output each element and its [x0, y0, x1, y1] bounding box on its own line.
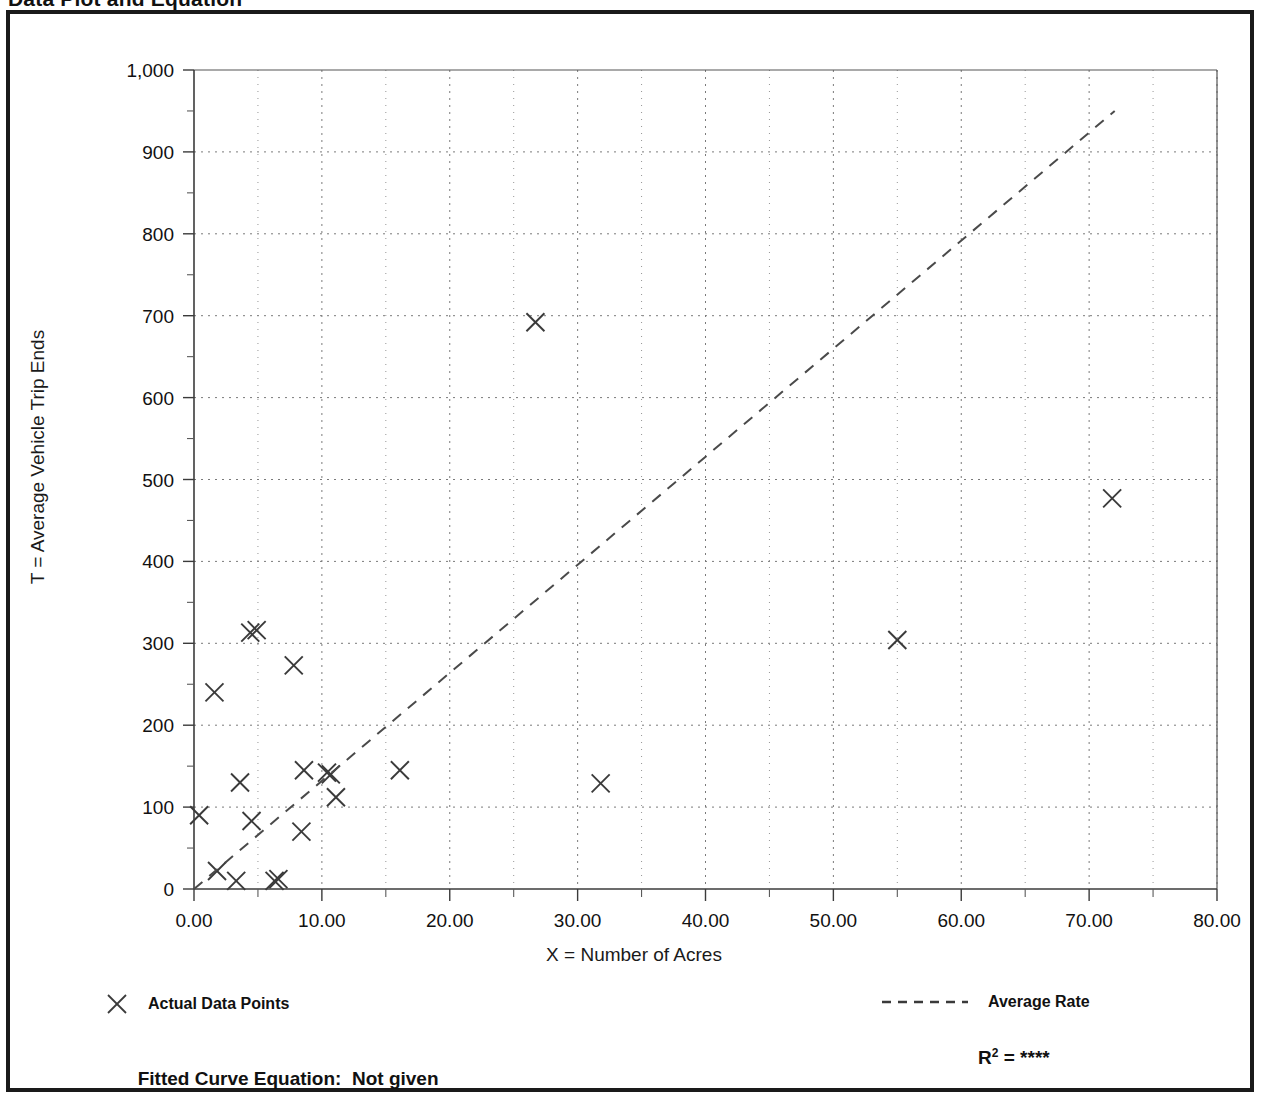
- x-axis-title: X = Number of Acres: [10, 944, 1258, 966]
- data-point-marker: [243, 812, 261, 830]
- y-axis-tick-label: 1,000: [126, 60, 174, 81]
- data-point-marker: [327, 788, 345, 806]
- data-point-marker: [227, 872, 245, 890]
- data-point-marker: [526, 313, 544, 331]
- x-axis-tick-label: 60.00: [937, 910, 985, 931]
- r-squared-stars: ****: [1020, 1047, 1050, 1068]
- dashed-line-icon: [882, 999, 968, 1005]
- data-point-marker: [205, 683, 223, 701]
- data-point-marker: [592, 774, 610, 792]
- data-point-marker: [190, 806, 208, 824]
- r-squared-exponent: 2: [992, 1046, 999, 1060]
- x-axis-tick-label: 50.00: [810, 910, 858, 931]
- r-squared-equals: =: [1004, 1047, 1015, 1068]
- x-axis-tick-label: 70.00: [1065, 910, 1113, 931]
- x-axis-tick-label: 20.00: [426, 910, 474, 931]
- data-point-marker: [285, 656, 303, 674]
- y-axis-tick-label: 900: [142, 142, 174, 163]
- chart-legend: Actual Data Points Average Rate: [10, 989, 1258, 1029]
- figure-frame: 01002003004005006007008009001,0000.0010.…: [6, 10, 1254, 1092]
- data-point-marker: [888, 631, 906, 649]
- legend-label-average-rate: Average Rate: [988, 993, 1090, 1011]
- data-point-marker: [295, 761, 313, 779]
- r-squared-value: R2 = ****: [978, 1046, 1050, 1069]
- data-point-group: [190, 313, 1121, 890]
- average-rate-trend-line: [194, 111, 1115, 889]
- y-axis-tick-label: 500: [142, 470, 174, 491]
- fitted-curve-equation-value: Not given: [352, 1068, 439, 1089]
- x-axis-tick-label: 80.00: [1193, 910, 1241, 931]
- equation-row: Fitted Curve Equation: Not given R2 = **…: [10, 1042, 1258, 1088]
- fitted-curve-equation-label: Fitted Curve Equation:: [138, 1068, 342, 1089]
- chart-plot-area: 01002003004005006007008009001,0000.0010.…: [10, 14, 1258, 1096]
- y-axis-tick-label: 0: [163, 879, 174, 900]
- y-axis-tick-label: 700: [142, 306, 174, 327]
- legend-label-actual-data-points: Actual Data Points: [148, 995, 289, 1013]
- fitted-curve-equation: Fitted Curve Equation: Not given: [106, 1046, 439, 1106]
- x-axis-tick-label: 40.00: [682, 910, 730, 931]
- scatter-chart-svg: 01002003004005006007008009001,0000.0010.…: [10, 14, 1258, 1096]
- x-axis-tick-label: 0.00: [176, 910, 213, 931]
- x-axis-tick-label: 30.00: [554, 910, 602, 931]
- legend-item-average-rate: Average Rate: [882, 993, 1090, 1011]
- y-axis-tick-label: 100: [142, 797, 174, 818]
- data-point-marker: [292, 823, 310, 841]
- data-point-marker: [231, 774, 249, 792]
- y-axis-tick-label: 200: [142, 715, 174, 736]
- r-squared-label: R: [978, 1047, 992, 1068]
- x-axis-tick-label: 10.00: [298, 910, 346, 931]
- x-marker-icon: [106, 993, 128, 1015]
- data-point-marker: [241, 624, 259, 642]
- y-axis-tick-label: 800: [142, 224, 174, 245]
- data-point-marker: [248, 621, 266, 639]
- data-point-marker: [208, 862, 226, 880]
- y-axis-tick-label: 300: [142, 633, 174, 654]
- data-point-marker: [1103, 489, 1121, 507]
- y-axis-title: T = Average Vehicle Trip Ends: [27, 287, 49, 627]
- data-point-marker: [391, 761, 409, 779]
- y-axis-tick-label: 400: [142, 551, 174, 572]
- legend-item-actual-data-points: Actual Data Points: [106, 993, 289, 1015]
- y-axis-tick-label: 600: [142, 388, 174, 409]
